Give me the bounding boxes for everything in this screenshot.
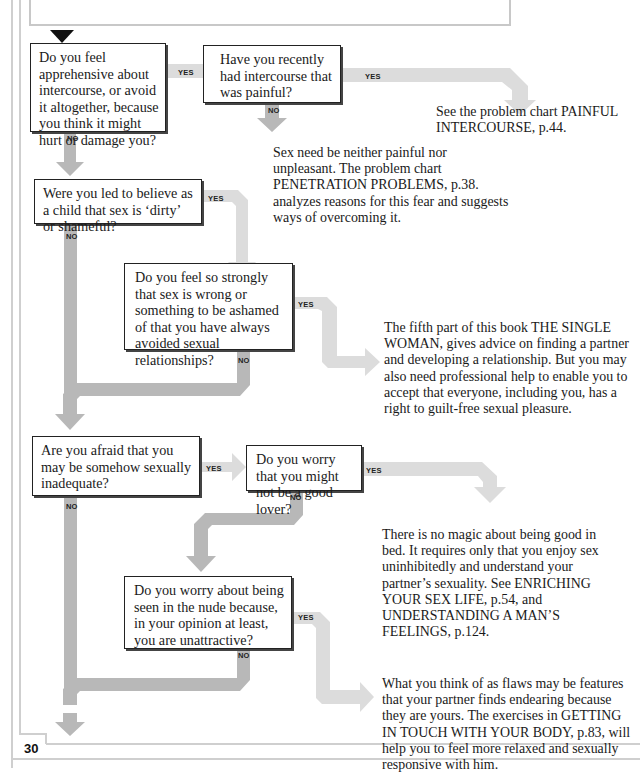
answer-single-woman: The fifth part of this book THE SINGLE W… xyxy=(384,320,632,417)
question-box-good-lover: Do you worry that you might not be a goo… xyxy=(246,445,362,491)
question-box-seen-nude: Do you worry about being seen in the nud… xyxy=(124,576,292,649)
no-label-q5: NO xyxy=(66,502,78,511)
question-box-dirty-shameful: Were you led to believe as a child that … xyxy=(34,179,202,224)
yes-label-q4: YES xyxy=(298,300,314,309)
answer-penetration-problems: Sex need be neither painful nor unpleasa… xyxy=(273,145,509,226)
start-marker-icon xyxy=(50,30,74,43)
question-box-apprehensive: Do you feel apprehensive about intercour… xyxy=(30,43,166,132)
yes-label-q3: YES xyxy=(208,194,224,203)
question-box-sexually-inadequate: Are you afraid that you may be somehow s… xyxy=(32,436,200,496)
answer-flaws-endearing: What you think of as flaws may be featur… xyxy=(382,676,634,773)
yes-label-q7: YES xyxy=(298,613,314,622)
no-label-q3: NO xyxy=(66,232,78,241)
page-number: 30 xyxy=(24,741,38,756)
no-label-q4: NO xyxy=(238,356,250,365)
no-label-q7: NO xyxy=(238,651,250,660)
yes-label-q2: YES xyxy=(365,72,381,81)
answer-good-in-bed: There is no magic about being good in be… xyxy=(382,527,622,640)
no-label-q2: NO xyxy=(268,106,280,115)
question-box-painful-intercourse: Have you recently had intercourse that w… xyxy=(203,45,341,103)
yes-label-q5: YES xyxy=(206,464,222,473)
yes-label-q6: YES xyxy=(366,466,382,475)
yes-label-q1: YES xyxy=(178,68,194,77)
question-box-avoided-relationships: Do you feel so strongly that sex is wron… xyxy=(124,263,293,350)
answer-painful-intercourse: See the problem chart PAINFUL INTERCOURS… xyxy=(436,104,636,136)
no-label-q6: NO xyxy=(290,493,302,502)
no-label-q1: NO xyxy=(67,134,79,143)
